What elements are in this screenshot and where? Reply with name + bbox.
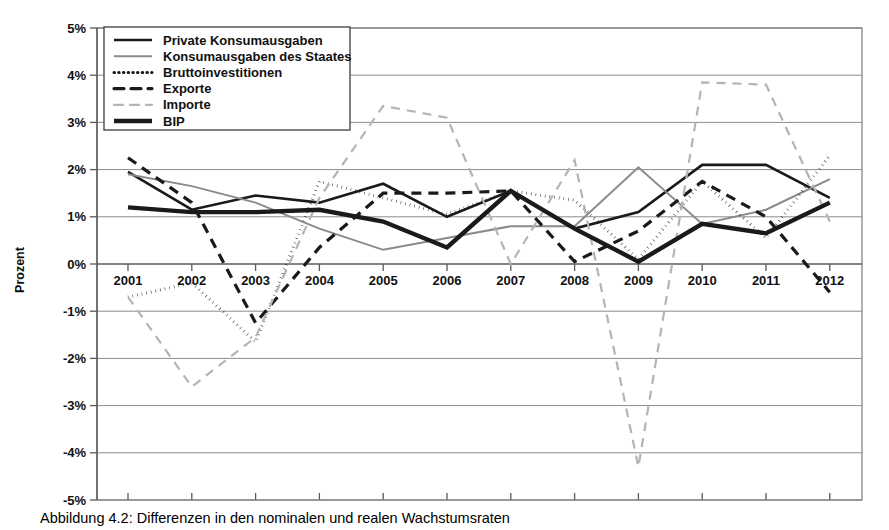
x-tick-label: 2004 xyxy=(305,273,335,288)
y-tick-label: -4% xyxy=(63,445,87,460)
y-tick-label: 5% xyxy=(67,21,86,36)
y-tick-label: 2% xyxy=(67,162,86,177)
y-tick-label: -5% xyxy=(63,493,87,508)
x-tick-label: 2009 xyxy=(624,273,653,288)
x-tick-label: 2011 xyxy=(752,273,780,288)
x-tick-label: 2003 xyxy=(241,273,270,288)
y-tick-label: 4% xyxy=(67,68,86,83)
x-tick-label: 2006 xyxy=(433,273,462,288)
y-tick-label: 3% xyxy=(67,115,86,130)
caption-label: Abbildung 4.2: Differenzen in den nomina… xyxy=(40,510,510,526)
y-axis-tick-labels: 5%4%3%2%1%0%-1%-2%-3%-4%-5% xyxy=(63,21,87,508)
legend-label: Exporte xyxy=(163,81,211,96)
legend-label: Konsumausgaben des Staates xyxy=(163,49,352,64)
y-tick-label: 0% xyxy=(67,257,86,272)
x-tick-label: 2002 xyxy=(177,273,206,288)
x-tick-label: 2001 xyxy=(114,273,143,288)
y-tick-label: 1% xyxy=(67,209,86,224)
legend-label: Importe xyxy=(163,97,211,112)
legend-label: Bruttoinvestitionen xyxy=(163,65,282,80)
y-tick-label: -3% xyxy=(63,398,87,413)
growth-rates-line-chart: 5%4%3%2%1%0%-1%-2%-3%-4%-5% 200120022003… xyxy=(0,0,889,530)
svg-text:Prozent: Prozent xyxy=(13,246,27,293)
legend-label: BIP xyxy=(163,114,185,129)
chart-figure: 5%4%3%2%1%0%-1%-2%-3%-4%-5% 200120022003… xyxy=(0,0,889,530)
legend-label: Private Konsumausgaben xyxy=(163,33,323,48)
y-tick-label: -1% xyxy=(63,304,87,319)
y-axis-title: Prozent xyxy=(13,246,27,293)
figure-caption: Abbildung 4.2: Differenzen in den nomina… xyxy=(40,509,860,530)
x-tick-label: 2010 xyxy=(688,273,717,288)
x-tick-label: 2008 xyxy=(560,273,589,288)
x-tick-label: 2005 xyxy=(369,273,398,288)
y-tick-label: -2% xyxy=(63,351,87,366)
x-tick-label: 2007 xyxy=(496,273,525,288)
